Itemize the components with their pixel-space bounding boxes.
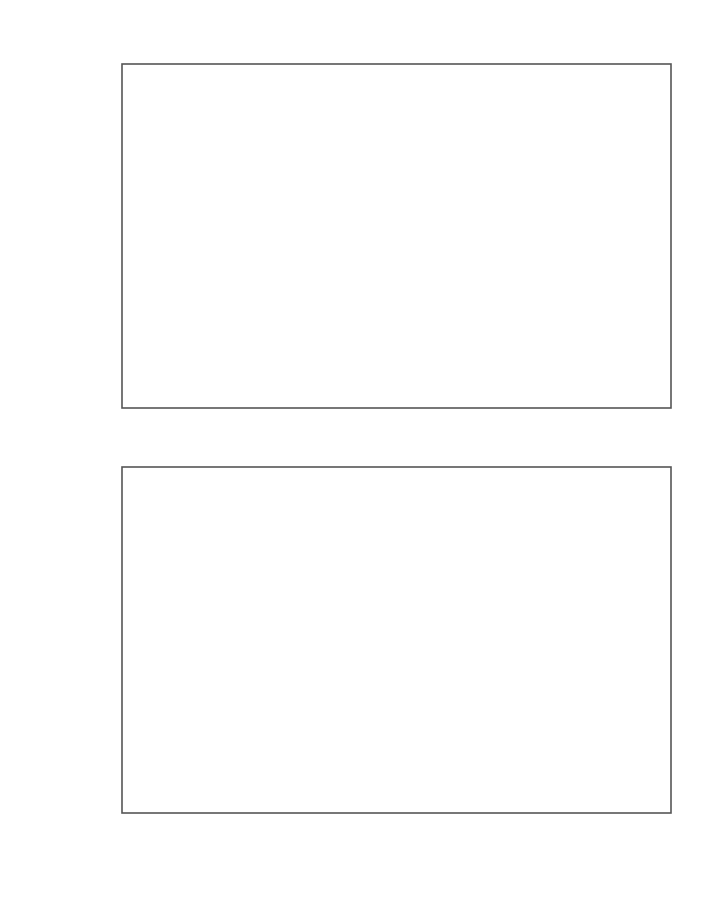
figure [0,0,710,918]
frequentist-plot-frame [122,467,671,813]
bayesian-plot-frame [122,64,671,408]
frequentist-panel [122,467,671,813]
bayesian-panel [122,64,671,408]
